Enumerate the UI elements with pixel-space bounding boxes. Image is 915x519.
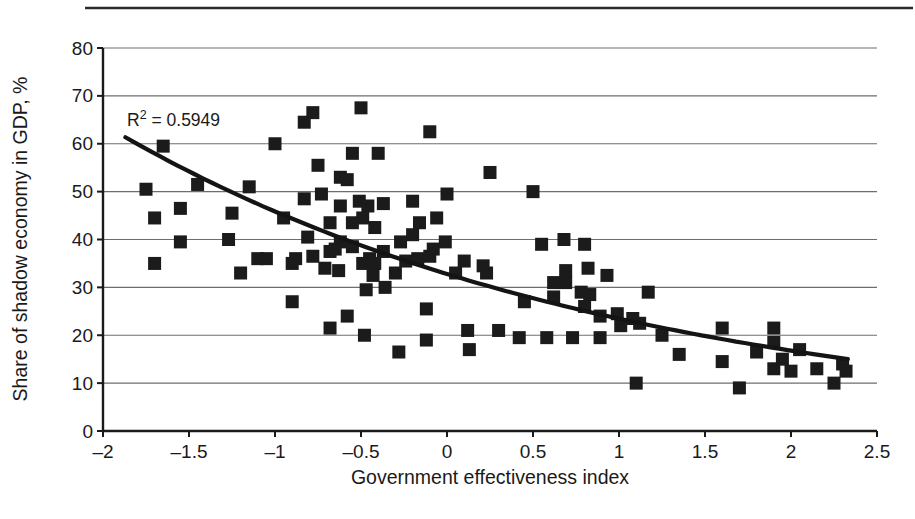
data-point-marker [716,322,729,335]
data-point-marker [594,331,607,344]
data-point-marker [394,235,407,248]
data-point-marker [332,264,345,277]
data-point-marker [642,286,655,299]
data-point-marker [420,334,433,347]
data-point-marker [298,116,311,129]
data-point-marker [234,267,247,280]
y-axis-title: Share of shadow economy in GDP, % [9,77,31,402]
data-point-marker [559,276,572,289]
data-point-marker [566,331,579,344]
data-point-marker [356,257,369,270]
data-point-marker [547,276,560,289]
data-point-marker [484,166,497,179]
data-point-marker [243,180,256,193]
data-point-marker [140,183,153,196]
data-point-marker [828,377,841,390]
data-point-marker [583,288,596,301]
data-point-marker [673,348,686,361]
data-point-marker [355,101,368,114]
data-point-marker [329,243,342,256]
y-tick-label-80: 80 [72,38,93,59]
data-point-marker [341,310,354,323]
x-tick-label--2: –2 [92,441,113,462]
data-point-marker [367,269,380,282]
gridlines-layer [103,48,877,383]
x-tick-label-2.5: 2.5 [864,441,890,462]
data-point-marker [600,269,613,282]
data-point-marker [289,252,302,265]
data-point-marker [630,377,643,390]
r-squared-annotation: R2 = 0.5949 [127,108,220,130]
data-point-marker [368,221,381,234]
scatter-chart: 01020304050607080–2–1.5–1–0.500.511.522.… [0,0,915,519]
data-point-marker [406,228,419,241]
data-point-marker [318,262,331,275]
y-tick-label-70: 70 [72,85,93,106]
data-point-marker [341,173,354,186]
r-squared-superscript: 2 [140,108,147,122]
data-point-marker [767,322,780,335]
data-point-marker [461,324,474,337]
data-point-marker [716,355,729,368]
data-point-marker [358,329,371,342]
data-point-marker [423,250,436,263]
data-point-marker [785,365,798,378]
data-point-marker [578,238,591,251]
data-point-marker [298,192,311,205]
data-point-marker [582,262,595,275]
data-point-marker [458,255,471,268]
data-point-marker [148,257,161,270]
y-tick-label-20: 20 [72,325,93,346]
y-tick-label-10: 10 [72,373,93,394]
data-point-marker [269,137,282,150]
data-point-marker [377,197,390,210]
data-points-layer [140,101,853,394]
y-tick-label-50: 50 [72,181,93,202]
data-point-marker [439,235,452,248]
x-tick-label--1.5: –1.5 [171,441,208,462]
data-point-marker [423,125,436,138]
data-point-marker [174,235,187,248]
data-point-marker [334,199,347,212]
data-point-marker [420,302,433,315]
data-point-marker [157,140,170,153]
x-tick-label-0.5: 0.5 [520,441,546,462]
x-tick-label-1: 1 [614,441,625,462]
data-point-marker [301,231,314,244]
data-point-marker [315,188,328,201]
data-point-marker [226,207,239,220]
x-axis-title: Government effectiveness index [351,466,629,488]
data-point-marker [389,267,402,280]
data-point-marker [324,322,337,335]
x-tick-label-1.5: 1.5 [692,441,718,462]
data-point-marker [306,250,319,263]
data-point-marker [360,283,373,296]
data-point-marker [346,147,359,160]
data-point-marker [840,365,853,378]
data-point-marker [406,195,419,208]
data-point-marker [413,216,426,229]
data-point-marker [480,267,493,280]
x-tick-label-2: 2 [786,441,797,462]
data-point-marker [148,211,161,224]
data-point-marker [767,362,780,375]
x-tick-label-0: 0 [442,441,453,462]
data-point-marker [733,381,746,394]
data-point-marker [174,202,187,215]
y-tick-label-60: 60 [72,133,93,154]
data-point-marker [527,185,540,198]
data-point-marker [463,343,476,356]
data-point-marker [559,264,572,277]
y-tick-label-30: 30 [72,277,93,298]
data-point-marker [361,199,374,212]
data-point-marker [430,211,443,224]
x-tick-label--0.5: –0.5 [343,441,380,462]
data-point-marker [379,281,392,294]
data-point-marker [368,257,381,270]
y-tick-label-0: 0 [82,421,93,442]
data-point-marker [535,238,548,251]
data-point-marker [492,324,505,337]
data-point-marker [286,295,299,308]
book-page-figure: 01020304050607080–2–1.5–1–0.500.511.522.… [0,0,915,519]
data-point-marker [540,331,553,344]
